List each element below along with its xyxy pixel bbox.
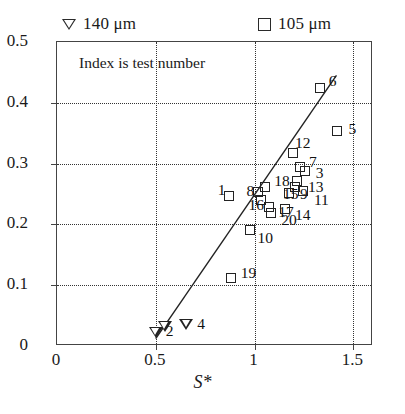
- data-point-5: [332, 126, 342, 136]
- x-axis-label: S*: [0, 372, 405, 393]
- open-square-icon: [245, 225, 255, 235]
- data-point-label-11: 11: [314, 192, 329, 208]
- open-square-icon: [260, 182, 270, 192]
- data-point-label-6: 6: [329, 73, 337, 89]
- data-point-19: [226, 273, 236, 283]
- down-triangle-icon: [62, 19, 76, 30]
- x-tick-1.5: 1.5: [342, 350, 363, 370]
- data-point-label-19: 19: [241, 265, 257, 281]
- down-triangle-icon: [158, 321, 172, 332]
- legend-label-140um: 140 μm: [83, 14, 136, 34]
- y-tick-0.5: 0.5: [7, 31, 28, 51]
- y-tick-0.1: 0.1: [7, 274, 28, 294]
- open-square-icon: [226, 273, 236, 283]
- y-tick-0.3: 0.3: [7, 153, 28, 173]
- data-point-3: [300, 166, 310, 176]
- down-triangle-icon: [179, 319, 193, 330]
- open-square-icon: [315, 83, 325, 93]
- legend-item-140um: 140 μm: [62, 13, 136, 35]
- legend-item-105um: 105 μm: [258, 13, 331, 35]
- plot-area: Index is test number 2419101818161720149…: [56, 41, 372, 345]
- y-tick-0.4: 0.4: [7, 92, 28, 112]
- x-tick-0: 0: [52, 350, 61, 370]
- data-point-label-10: 10: [258, 230, 274, 246]
- data-point-4: [179, 322, 193, 330]
- data-point-6: [315, 83, 325, 93]
- open-square-icon: [258, 18, 271, 31]
- data-point-label-4: 4: [197, 316, 205, 332]
- data-point-10: [245, 225, 255, 235]
- data-point-14: [280, 204, 290, 214]
- legend-label-105um: 105 μm: [278, 14, 331, 34]
- data-point-label-14: 14: [295, 207, 311, 223]
- data-point-18: [260, 182, 270, 192]
- open-square-icon: [300, 166, 310, 176]
- data-point-2b: [158, 324, 172, 332]
- data-point-label-15: 15: [283, 186, 299, 202]
- data-point-11: [298, 186, 308, 196]
- x-tick-1: 1: [249, 350, 258, 370]
- x-tick-0.5: 0.5: [144, 350, 165, 370]
- open-square-icon: [266, 208, 276, 218]
- data-point-label-12: 12: [295, 135, 311, 151]
- open-square-icon: [332, 126, 342, 136]
- data-point-label-5: 5: [348, 121, 356, 137]
- open-square-icon: [280, 204, 290, 214]
- data-point-label-1: 1: [218, 182, 226, 198]
- x-axis-label-text: S*: [194, 372, 212, 392]
- data-point-20: [266, 208, 276, 218]
- data-point-label-16: 16: [248, 197, 264, 213]
- figure-root: 140 μm 105 μm 0.5 0.4 0.3 0.2 0.1 0 0 0.…: [0, 0, 405, 414]
- y-tick-0: 0: [20, 335, 29, 355]
- open-square-icon: [298, 186, 308, 196]
- y-tick-0.2: 0.2: [7, 213, 28, 233]
